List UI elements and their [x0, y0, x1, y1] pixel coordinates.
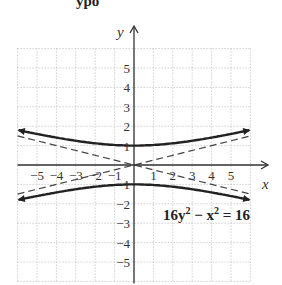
curve-arrow-icon: [243, 195, 251, 202]
y-tick-label: −5: [116, 255, 130, 270]
y-tick-label: −4: [116, 236, 130, 251]
curve-arrow-icon: [243, 128, 251, 135]
x-tick-label: 4: [208, 168, 215, 183]
y-tick-label: −2: [116, 197, 130, 212]
x-tick-label: 1: [150, 168, 157, 183]
y-tick-label: 1: [124, 139, 131, 154]
y-tick-label: 3: [124, 100, 131, 115]
curve-arrow-icon: [18, 195, 26, 202]
y-tick-label: 2: [124, 119, 131, 134]
curve-arrow-icon: [18, 128, 26, 135]
x-tick-label: 2: [170, 168, 177, 183]
y-tick-label: −3: [116, 216, 130, 231]
y-tick-label: 5: [124, 61, 131, 76]
x-tick-label: −2: [88, 168, 102, 183]
x-axis-label: x: [261, 176, 269, 192]
x-tick-label: −5: [30, 168, 44, 183]
y-axis-label: y: [115, 24, 124, 40]
x-tick-label: −3: [69, 168, 83, 183]
x-tick-label: −4: [49, 168, 63, 183]
y-tick-label: 4: [124, 80, 131, 95]
axes: [18, 26, 268, 283]
hyperbola-graph: ypo −5−4−3−2−11234554321−1−2−3−4−5 y x 1…: [0, 0, 282, 285]
x-tick-label: 3: [189, 168, 196, 183]
x-tick-label: 5: [228, 168, 235, 183]
equation-label: 16y2 − x2 = 16: [163, 205, 251, 223]
eq-part: 16y: [163, 207, 186, 223]
y-tick-label: −1: [116, 177, 130, 192]
heading-fragment: ypo: [76, 0, 99, 9]
